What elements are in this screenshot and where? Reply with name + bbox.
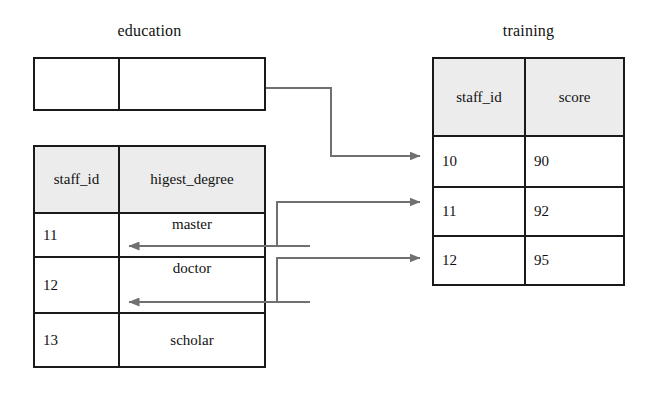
table-row[interactable]: 12 95 [434, 235, 623, 284]
table-row[interactable] [35, 59, 264, 109]
training-cell-staff-id: 12 [434, 237, 526, 284]
table-row[interactable]: 11 master [35, 212, 264, 256]
degree-column-higest-degree: higest_degree [120, 147, 264, 212]
degree-table[interactable]: staff_id higest_degree 11 master 12 doct… [33, 145, 266, 368]
training-cell-score: 95 [526, 237, 623, 284]
training-column-staff-id: staff_id [434, 59, 526, 135]
table-row[interactable]: 11 92 [434, 186, 623, 235]
training-table[interactable]: staff_id score 10 90 11 92 12 95 [432, 57, 625, 286]
training-cell-staff-id: 10 [434, 137, 526, 186]
degree-cell-staff-id: 12 [35, 258, 120, 312]
degree-cell-higest-degree: master [120, 214, 264, 256]
table-row[interactable]: 10 90 [434, 135, 623, 186]
degree-column-staff-id: staff_id [35, 147, 120, 212]
education-cell-staff-id [35, 59, 120, 109]
table-row[interactable]: 12 doctor [35, 256, 264, 312]
table-row[interactable]: 13 scholar [35, 312, 264, 366]
degree-cell-staff-id: 13 [35, 314, 120, 366]
education-table[interactable] [33, 57, 266, 111]
degree-cell-staff-id: 11 [35, 214, 120, 256]
degree-cell-higest-degree: scholar [120, 314, 264, 366]
connector-degree-12-to-training-12 [266, 258, 420, 302]
connector-degree-11-to-training-11 [266, 202, 420, 246]
education-cell-degree [120, 59, 264, 109]
degree-header-row: staff_id higest_degree [35, 147, 264, 212]
training-table-title: training [432, 22, 625, 40]
training-cell-staff-id: 11 [434, 188, 526, 235]
education-table-title: education [33, 22, 266, 40]
training-column-score: score [526, 59, 623, 135]
diagram-canvas: education training staff_id higest_degre… [0, 0, 655, 393]
degree-cell-higest-degree: doctor [120, 258, 264, 312]
training-cell-score: 92 [526, 188, 623, 235]
connector-education-to-training-10 [266, 88, 420, 156]
training-cell-score: 90 [526, 137, 623, 186]
training-header-row: staff_id score [434, 59, 623, 135]
